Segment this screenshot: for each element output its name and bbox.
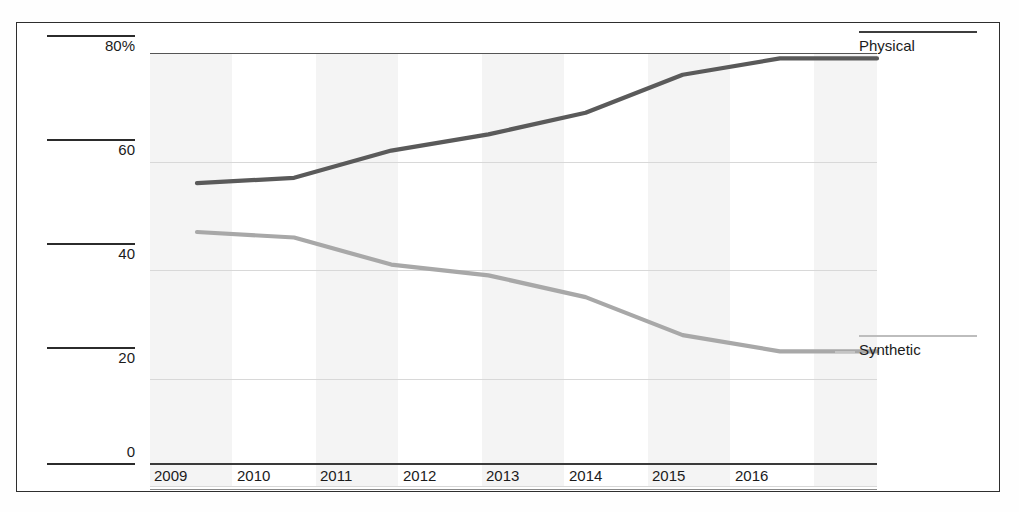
x-label-2016: 2016 (735, 467, 768, 485)
y-label-0: 0 (47, 443, 135, 461)
series-line-synthetic (197, 232, 877, 351)
legend-rule-synthetic (859, 335, 977, 337)
x-label-2009: 2009 (154, 467, 187, 485)
legend-connector-physical (835, 57, 855, 59)
x-label-2013: 2013 (486, 467, 519, 485)
legend-connector-synthetic (835, 351, 855, 353)
y-tick-0 (47, 463, 135, 465)
y-label-80: 80% (47, 37, 135, 55)
x-label-2015: 2015 (652, 467, 685, 485)
series-plot (150, 53, 877, 487)
legend-entry-synthetic: Synthetic (859, 335, 1009, 359)
legend-entry-physical: Physical (859, 31, 1009, 55)
x-label-2014: 2014 (569, 467, 602, 485)
y-label-40: 40 (47, 245, 135, 263)
legend-label-synthetic: Synthetic (859, 341, 1009, 359)
series-line-physical (197, 58, 877, 183)
x-label-2010: 2010 (237, 467, 270, 485)
page-canvas: 80% 60 40 20 0 (0, 0, 1019, 512)
legend-label-physical: Physical (859, 37, 1009, 55)
clipped-caption-text (62, 0, 382, 7)
x-label-2012: 2012 (403, 467, 436, 485)
y-label-20: 20 (47, 349, 135, 367)
legend-rule-physical (859, 31, 977, 33)
chart-frame: 80% 60 40 20 0 (16, 22, 1000, 492)
y-label-60: 60 (47, 141, 135, 159)
plot-area (150, 53, 877, 487)
x-axis-line (150, 463, 877, 465)
x-label-2011: 2011 (320, 467, 352, 485)
x-axis-baseline (150, 489, 877, 490)
